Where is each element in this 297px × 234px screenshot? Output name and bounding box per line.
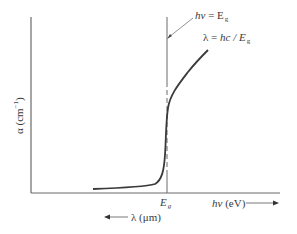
y-label-alpha: α: [13, 128, 25, 134]
annotation-hv-eg: hν = Eg: [195, 9, 228, 23]
y-label-exp: −1: [12, 101, 20, 108]
eg-tick-label: Eg: [160, 196, 171, 210]
y-label-unit: (cm: [13, 108, 25, 125]
annotation-leader: [169, 18, 193, 37]
x-label-unit: (eV): [225, 197, 245, 209]
ann2-eg: / E: [230, 31, 245, 43]
ann2-lambda: λ =: [203, 31, 220, 43]
annotation-lambda: λ = hc / Eg: [203, 31, 250, 45]
ann2-sub: g: [247, 37, 251, 45]
eg-sub: g: [168, 202, 172, 210]
y-axis-label: α (cm−1): [12, 97, 25, 134]
eg-main: E: [160, 196, 167, 208]
hv-arrowhead: [273, 201, 279, 206]
x-axis-label: hν (eV): [212, 197, 245, 209]
ann1-eq: = E: [205, 9, 223, 21]
lambda-axis-label: λ (μm): [131, 211, 161, 223]
absorption-curve: [93, 50, 208, 189]
y-label-close: ): [13, 97, 25, 101]
ann1-hv: hν: [195, 9, 205, 21]
ann2-hc: hc: [220, 31, 230, 43]
x-label-hv: hν: [212, 197, 222, 209]
ann1-sub: g: [225, 15, 229, 23]
chart-canvas: [0, 0, 297, 234]
lambda-arrowhead: [104, 215, 110, 220]
